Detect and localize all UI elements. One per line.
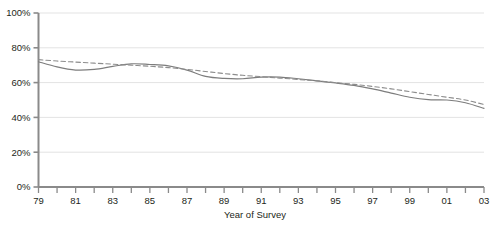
x-axis-title: Year of Survey: [224, 209, 286, 220]
y-tick-label: 80%: [11, 42, 31, 53]
y-tick-label: 60%: [11, 77, 31, 88]
line-chart: 0%20%40%60%80%100% 798183858789919395979…: [0, 0, 496, 235]
y-tick-label: 40%: [11, 112, 31, 123]
data-series-layer: [39, 60, 485, 109]
x-tick-label: 85: [145, 195, 156, 206]
x-tick-label: 79: [33, 195, 44, 206]
x-tick-label: 91: [256, 195, 267, 206]
chart-canvas: 0%20%40%60%80%100% 798183858789919395979…: [0, 0, 496, 235]
x-tick-label: 93: [293, 195, 304, 206]
x-tick-label: 97: [367, 195, 378, 206]
y-axis-tick-labels: 0%20%40%60%80%100%: [6, 7, 31, 192]
series-line-trend: [39, 60, 485, 105]
series-line-observed: [39, 62, 485, 109]
gridlines: [39, 13, 485, 187]
y-tick-label: 100%: [6, 7, 31, 18]
x-tick-label: 01: [442, 195, 453, 206]
x-tick-label: 83: [107, 195, 118, 206]
x-tick-label: 87: [182, 195, 193, 206]
x-tick-label: 99: [404, 195, 415, 206]
x-tick-label: 81: [70, 195, 81, 206]
x-tick-label: 95: [330, 195, 341, 206]
x-tick-label: 89: [219, 195, 230, 206]
y-tick-label: 0%: [17, 181, 31, 192]
y-tick-label: 20%: [11, 147, 31, 158]
x-axis-tick-labels: 79818385878991939597990103: [33, 195, 489, 206]
x-tick-label: 03: [479, 195, 490, 206]
